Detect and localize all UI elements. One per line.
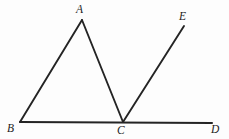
geometry-canvas — [0, 0, 229, 139]
segments-group — [20, 20, 212, 123]
segment-BD — [20, 122, 212, 123]
geometry-figure: A E B C D — [0, 0, 229, 139]
segment-CE — [123, 26, 184, 122]
vertex-label-d: D — [211, 124, 219, 136]
vertex-label-b: B — [7, 123, 14, 135]
vertex-label-a: A — [76, 4, 83, 16]
segment-AC — [82, 20, 123, 122]
segment-BA — [20, 20, 82, 122]
vertex-label-c: C — [117, 125, 125, 137]
vertex-label-e: E — [179, 11, 186, 23]
